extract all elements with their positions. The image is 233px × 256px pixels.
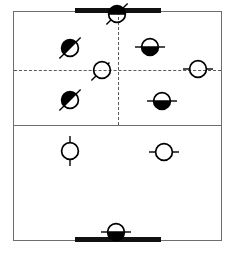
court-midline: [13, 125, 222, 126]
center-vertical-dashed-line: [118, 12, 119, 125]
diagram-canvas: [0, 0, 233, 256]
token-lower-right[interactable]: [151, 90, 173, 112]
token-upper-left[interactable]: [59, 37, 81, 59]
token-upper-right[interactable]: [139, 36, 161, 58]
token-lower-left[interactable]: [59, 89, 81, 111]
token-center-left[interactable]: [91, 59, 113, 81]
token-bottom-goal[interactable]: [105, 221, 127, 243]
token-top-goal[interactable]: [106, 3, 128, 25]
token-back-left[interactable]: [59, 140, 81, 162]
token-center-right[interactable]: [187, 58, 209, 80]
token-back-right[interactable]: [153, 141, 175, 163]
